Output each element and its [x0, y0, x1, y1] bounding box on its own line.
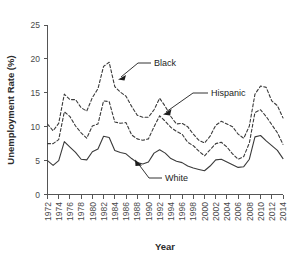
- x-tick-label: 2012: [267, 202, 277, 221]
- x-tick-label: 1972: [43, 202, 53, 221]
- y-axis-ticks: [44, 25, 48, 195]
- x-axis-ticks: [48, 195, 284, 200]
- x-tick-label: 2008: [245, 202, 255, 221]
- x-tick-label: 2014: [278, 202, 288, 221]
- x-tick-label: 1982: [99, 202, 109, 221]
- series-group: [48, 62, 284, 170]
- x-tick-label: 1998: [188, 202, 198, 221]
- series-line-black: [48, 62, 284, 143]
- x-tick-label: 1984: [110, 202, 120, 221]
- black-annotation: Black: [118, 58, 177, 81]
- x-tick-label: 1974: [54, 202, 64, 221]
- x-tick-label: 1986: [121, 202, 131, 221]
- series-line-white: [48, 136, 284, 171]
- x-tick-label: 2004: [222, 202, 232, 221]
- x-tick-label: 1988: [132, 202, 142, 221]
- y-axis-tick-labels: 0510152025: [31, 20, 41, 200]
- y-tick-label: 0: [35, 190, 40, 200]
- white-annotation-label: White: [165, 173, 188, 183]
- x-tick-label: 2000: [200, 202, 210, 221]
- chart-figure: 0510152025 19721974197619781980198219841…: [0, 0, 300, 260]
- x-tick-label: 2002: [211, 202, 221, 221]
- x-tick-label: 2010: [256, 202, 266, 221]
- x-tick-label: 1980: [88, 202, 98, 221]
- hispanic-annotation: Hispanic: [163, 88, 246, 116]
- x-tick-label: 1996: [177, 202, 187, 221]
- y-tick-label: 15: [31, 88, 41, 98]
- unemployment-rate-line-chart: 0510152025 19721974197619781980198219841…: [0, 0, 300, 260]
- x-tick-label: 1978: [76, 202, 86, 221]
- black-annotation-label: Black: [154, 58, 177, 68]
- y-tick-label: 5: [35, 156, 40, 166]
- x-axis-tick-labels: 1972197419761978198019821984198619881990…: [43, 202, 289, 221]
- white-arrowhead-icon: [135, 160, 142, 167]
- hispanic-annotation-label: Hispanic: [211, 88, 246, 98]
- white-annotation: White: [135, 160, 188, 184]
- x-tick-label: 2006: [233, 202, 243, 221]
- y-tick-label: 20: [31, 54, 41, 64]
- x-tick-label: 1976: [65, 202, 75, 221]
- x-tick-label: 1990: [144, 202, 154, 221]
- x-tick-label: 1994: [166, 202, 176, 221]
- x-axis-title: Year: [155, 241, 175, 252]
- hispanic-leader-arrow-line: [166, 93, 193, 112]
- black-leader-arrow-line: [121, 63, 138, 77]
- y-axis-title: Unemployment Rate (%): [5, 55, 16, 164]
- y-tick-label: 25: [31, 20, 41, 30]
- y-tick-label: 10: [31, 122, 41, 132]
- x-tick-label: 1992: [155, 202, 165, 221]
